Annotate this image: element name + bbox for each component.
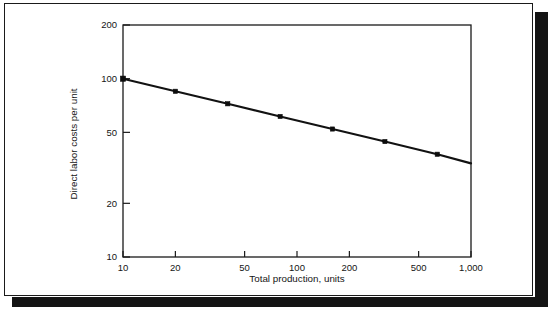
x-tick-label: 1,000 — [459, 262, 483, 273]
x-tick-label: 10 — [118, 262, 129, 273]
data-series — [120, 76, 471, 163]
series-marker — [383, 139, 387, 143]
x-tick-label: 100 — [289, 262, 305, 273]
y-axis-title: Direct labor costs per unit — [68, 88, 79, 199]
x-tick-label: 20 — [170, 262, 181, 273]
y-axis-tick-labels: 102050100200 — [101, 19, 117, 262]
series-marker — [226, 102, 230, 106]
plot-border — [123, 25, 471, 257]
chart-area: 1020501002005001,000 102050100200 Total … — [5, 4, 534, 297]
series-marker — [120, 76, 125, 81]
panel-shadow-bottom — [12, 297, 548, 307]
series-marker — [330, 127, 334, 131]
y-tick-label: 200 — [101, 19, 117, 30]
learning-curve-chart: 1020501002005001,000 102050100200 Total … — [5, 4, 534, 297]
x-axis-ticks — [123, 251, 471, 257]
figure-panel: 1020501002005001,000 102050100200 Total … — [4, 3, 533, 296]
plot-frame — [123, 25, 471, 257]
y-tick-label: 10 — [106, 251, 117, 262]
y-tick-label: 20 — [106, 198, 117, 209]
x-tick-label: 50 — [239, 262, 250, 273]
x-axis-title: Total production, units — [249, 273, 344, 284]
series-marker — [173, 89, 177, 93]
y-tick-label: 50 — [106, 127, 117, 138]
x-tick-label: 200 — [341, 262, 357, 273]
x-tick-label: 500 — [411, 262, 427, 273]
series-marker — [278, 114, 282, 118]
y-axis-ticks — [123, 25, 130, 257]
y-tick-label: 100 — [101, 73, 117, 84]
panel-shadow-right — [535, 12, 548, 307]
x-axis-tick-labels: 1020501002005001,000 — [118, 262, 483, 273]
series-marker — [435, 152, 439, 156]
